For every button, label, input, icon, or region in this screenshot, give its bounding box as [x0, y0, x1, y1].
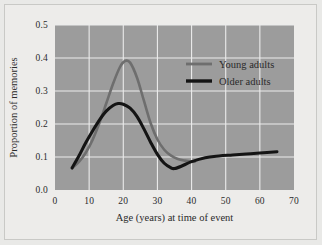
plot-area-background	[55, 25, 294, 190]
y-tick-label: 0.4	[36, 53, 49, 63]
y-axis-tick-labels: 0.00.10.20.30.40.5	[36, 20, 49, 195]
x-axis-title: Age (years) at time of event	[116, 212, 234, 224]
x-tick-label: 10	[84, 196, 94, 206]
y-tick-label: 0.0	[36, 185, 49, 195]
x-tick-label: 20	[118, 196, 128, 206]
x-tick-label: 0	[53, 196, 58, 206]
legend-label-older-adults: Older adults	[219, 76, 271, 87]
x-tick-label: 50	[221, 196, 231, 206]
x-tick-label: 40	[187, 196, 197, 206]
x-tick-label: 60	[255, 196, 265, 206]
y-tick-label: 0.1	[36, 152, 49, 162]
memory-proportion-line-chart: 0.00.10.20.30.40.5 010203040506070 Propo…	[0, 0, 322, 245]
x-axis-tick-labels: 010203040506070	[53, 196, 299, 206]
legend-label-young-adults: Young adults	[219, 59, 274, 70]
y-tick-label: 0.5	[36, 20, 49, 30]
y-axis-title: Proportion of memories	[8, 57, 19, 157]
x-tick-label: 70	[289, 196, 299, 206]
x-tick-label: 30	[152, 196, 162, 206]
y-tick-label: 0.3	[36, 86, 49, 96]
y-tick-label: 0.2	[36, 119, 49, 129]
chart-figure-root: 0.00.10.20.30.40.5 010203040506070 Propo…	[0, 0, 322, 245]
